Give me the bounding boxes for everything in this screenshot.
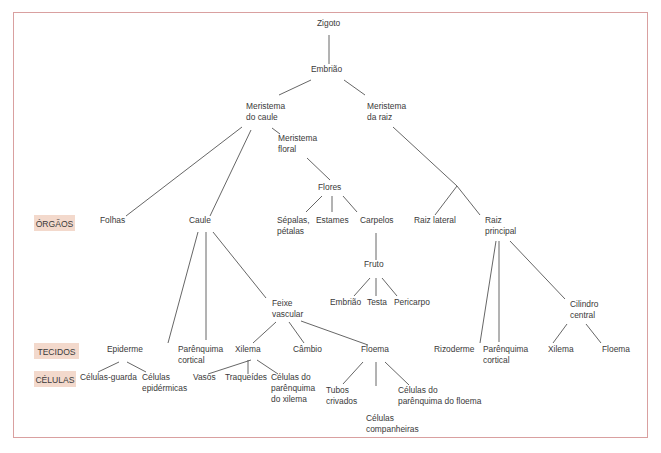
node-tubos-crivados: Tuboscrivados [326, 385, 357, 406]
node-label-line: Fruto [364, 259, 384, 269]
connector-line [480, 241, 496, 343]
plant-development-tree: ÓRGÃOSTECIDOSCÉLULASZigotoEmbriãoMeriste… [0, 0, 661, 453]
connector-line [510, 241, 565, 299]
node-label-line: Xilema [548, 344, 574, 354]
node-label-line: Células do [271, 372, 311, 382]
connector-line [213, 232, 266, 298]
node-label-line: Células [366, 413, 394, 423]
node-label-line: cortical [178, 355, 205, 365]
connector-line [586, 324, 601, 343]
connector-line [457, 186, 480, 215]
node-label-line: floral [278, 144, 296, 154]
connector-line [168, 232, 198, 343]
node-meristema-floral: Meristemafloral [278, 133, 317, 154]
node-label-line: Sépalas, [277, 215, 310, 225]
node-meristema-caule: Meristemado caule [246, 101, 285, 122]
node-celulas-guarda: Células-guarda [80, 372, 137, 382]
node-label-line: Meristema [367, 101, 406, 111]
node-label-line: Floema [602, 344, 630, 354]
node-label-line: Xilema [235, 344, 261, 354]
node-label-line: Traqueídes [225, 372, 267, 382]
node-label-line: Cilindro [570, 299, 599, 309]
node-label-line: Células do [398, 385, 438, 395]
node-label-line: Folhas [100, 215, 125, 225]
node-label-line: Raiz [485, 215, 502, 225]
node-label-line: Câmbio [293, 344, 322, 354]
connector-line [385, 362, 409, 385]
connector-line [306, 196, 322, 212]
node-meristema-raiz: Meristemada raiz [367, 101, 406, 122]
node-label-line: da raiz [367, 112, 392, 122]
connector-line [435, 186, 457, 215]
connector-line [127, 362, 146, 372]
node-label-line: principal [485, 226, 516, 236]
node-rizoderme: Rizoderme [434, 344, 475, 354]
node-label-line: epidérmicas [142, 383, 187, 393]
node-pericarpo: Pericarpo [394, 297, 430, 307]
node-folhas: Folhas [100, 215, 125, 225]
node-embriao-2: Embrião [330, 297, 362, 307]
node-celulas-parenquima-floema: Células doparênquima do floema [398, 385, 482, 406]
level-label-text: ÓRGÃOS [36, 219, 74, 229]
node-label-line: Células [142, 372, 170, 382]
node-floema: Floema [361, 344, 389, 354]
node-label-line: central [570, 310, 595, 320]
connector-line [126, 127, 242, 216]
level-label-celulas: CÉLULAS [34, 371, 76, 387]
node-label-line: Testa [367, 297, 387, 307]
node-label-line: Tubos [326, 385, 349, 395]
node-label-line: vascular [272, 309, 303, 319]
level-label-orgaos: ÓRGÃOS [34, 215, 75, 231]
node-label-line: Floema [361, 344, 389, 354]
connector-line [343, 196, 357, 212]
node-label-line: Meristema [246, 101, 285, 111]
node-label-line: Epiderme [107, 344, 143, 354]
level-label-text: CÉLULAS [35, 375, 74, 385]
connector-line [279, 80, 311, 95]
node-zigoto: Zigoto [317, 18, 341, 28]
node-parenquima-cortical: Parênquimacortical [178, 344, 224, 365]
node-label-line: do xilema [271, 394, 307, 404]
node-label-line: Pericarpo [394, 297, 430, 307]
level-label-tecidos: TECIDOS [34, 343, 79, 359]
connector-line [393, 127, 457, 186]
node-cambio: Câmbio [293, 344, 322, 354]
connector-line [253, 322, 276, 343]
node-label-line: Raiz lateral [414, 215, 456, 225]
node-label-line: Zigoto [317, 18, 341, 28]
node-celulas-companheiras: Célulascompanheiras [366, 413, 419, 434]
connector-line [354, 278, 370, 296]
node-label-line: Estames [316, 215, 349, 225]
connector-line [344, 80, 365, 95]
node-epiderme: Epiderme [107, 344, 143, 354]
node-flores: Flores [318, 182, 341, 192]
node-feixe-vascular: Feixevascular [272, 298, 303, 319]
node-xilema-raiz: Xilema [548, 344, 574, 354]
node-label-line: parênquima [271, 383, 316, 393]
node-label-line: crivados [326, 396, 357, 406]
node-floema-raiz: Floema [602, 344, 630, 354]
node-testa: Testa [367, 297, 387, 307]
node-label-line: Embrião [330, 297, 362, 307]
node-label-line: Parênquima [178, 344, 224, 354]
node-raiz-lateral: Raiz lateral [414, 215, 456, 225]
node-label-line: companheiras [366, 424, 419, 434]
node-label-line: Embrião [311, 64, 343, 74]
node-embriao: Embrião [311, 64, 343, 74]
node-label-line: cortical [483, 355, 510, 365]
node-estames: Estames [316, 215, 349, 225]
connector-line [343, 362, 363, 384]
node-vasos: Vasos [193, 372, 216, 382]
node-label-line: parênquima do floema [398, 396, 482, 406]
node-label-line: Caule [189, 215, 211, 225]
connector-line [307, 158, 330, 180]
node-raiz-principal: Raizprincipal [485, 215, 516, 236]
node-label-line: Carpelos [360, 215, 394, 225]
node-label-line: Flores [318, 182, 341, 192]
connector-line [553, 324, 567, 343]
connector-line [289, 322, 304, 343]
node-caule: Caule [189, 215, 211, 225]
node-carpelos: Carpelos [360, 215, 394, 225]
connector-line [210, 130, 251, 216]
node-label-line: Parênquima [483, 344, 529, 354]
